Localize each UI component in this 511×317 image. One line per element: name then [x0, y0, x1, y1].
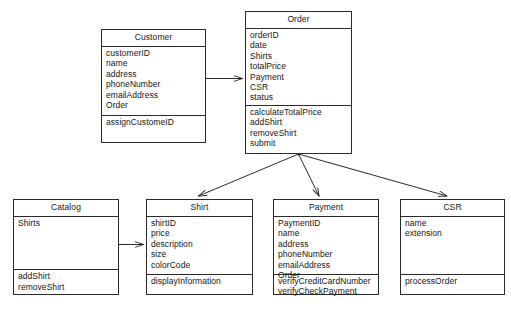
attribute-row: address	[106, 69, 201, 79]
attribute-row: extension	[405, 228, 500, 238]
class-name-order: Order	[246, 12, 351, 29]
attribute-row: name	[278, 228, 374, 238]
class-methods-order: calculateTotalPrice addShirt removeShirt…	[246, 106, 351, 151]
attribute-row: address	[278, 239, 374, 249]
attribute-row: Order	[106, 100, 201, 110]
method-row: submit	[250, 138, 347, 148]
attribute-row: size	[151, 249, 248, 259]
attribute-row: phoneNumber	[106, 79, 201, 89]
class-name-payment: Payment	[274, 200, 378, 217]
class-box-order[interactable]: Order orderID date Shirts totalPrice Pay…	[245, 11, 352, 154]
class-attributes-customer: customerID name address phoneNumber emai…	[102, 47, 205, 116]
method-row: removeShirt	[18, 282, 114, 292]
method-row: calculateTotalPrice	[250, 107, 347, 117]
class-methods-csr: processOrder	[401, 275, 504, 288]
attribute-row: orderID	[250, 30, 347, 40]
association-order-payment	[299, 154, 320, 196]
class-diagram-canvas: Customer customerID name address phoneNu…	[0, 0, 511, 317]
attribute-row: totalPrice	[250, 61, 347, 71]
class-box-catalog[interactable]: Catalog Shirts addShirt removeShirt	[13, 199, 119, 295]
attribute-row: emailAddress	[106, 90, 201, 100]
attribute-row: PaymentID	[278, 218, 374, 228]
class-name-catalog: Catalog	[14, 200, 118, 217]
class-attributes-catalog: Shirts	[14, 217, 118, 270]
class-attributes-order: orderID date Shirts totalPrice Payment C…	[246, 29, 351, 106]
attribute-row: name	[405, 218, 500, 228]
method-row: verifyCheckPayment	[278, 286, 374, 296]
attribute-row: customerID	[106, 48, 201, 58]
attribute-row: emailAddress	[278, 260, 374, 270]
method-row: removeShirt	[250, 128, 347, 138]
association-order-shirt	[199, 154, 299, 196]
class-attributes-payment: PaymentID name address phoneNumber email…	[274, 217, 378, 275]
method-row: addShirt	[250, 117, 347, 127]
attribute-row: description	[151, 239, 248, 249]
attribute-row: date	[250, 40, 347, 50]
class-methods-payment: verifyCreditCardNumber verifyCheckPaymen…	[274, 275, 378, 299]
class-methods-shirt: displayInformation	[147, 275, 252, 288]
class-methods-customer: assignCustomeID	[102, 116, 205, 129]
class-box-csr[interactable]: CSR name extension processOrder	[400, 199, 505, 295]
attribute-row: price	[151, 228, 248, 238]
class-attributes-shirt: shirtID price description size colorCode	[147, 217, 252, 275]
method-row: verifyCreditCardNumber	[278, 276, 374, 286]
class-box-customer[interactable]: Customer customerID name address phoneNu…	[101, 29, 206, 143]
attribute-row: shirtID	[151, 218, 248, 228]
class-box-payment[interactable]: Payment PaymentID name address phoneNumb…	[273, 199, 379, 295]
attribute-row: phoneNumber	[278, 249, 374, 259]
attribute-row: CSR	[250, 82, 347, 92]
attribute-row: Shirts	[18, 218, 114, 228]
method-row: displayInformation	[151, 276, 248, 286]
class-methods-catalog: addShirt removeShirt	[14, 270, 118, 294]
attribute-row: status	[250, 92, 347, 102]
class-attributes-csr: name extension	[401, 217, 504, 275]
class-name-shirt: Shirt	[147, 200, 252, 217]
attribute-row: Payment	[250, 72, 347, 82]
class-name-csr: CSR	[401, 200, 504, 217]
method-row: processOrder	[405, 276, 500, 286]
class-name-customer: Customer	[102, 30, 205, 47]
attribute-row: Shirts	[250, 51, 347, 61]
association-order-csr	[299, 154, 448, 196]
attribute-row: colorCode	[151, 260, 248, 270]
attribute-row: name	[106, 58, 201, 68]
method-row: assignCustomeID	[106, 117, 201, 127]
method-row: addShirt	[18, 271, 114, 281]
class-box-shirt[interactable]: Shirt shirtID price description size col…	[146, 199, 253, 295]
